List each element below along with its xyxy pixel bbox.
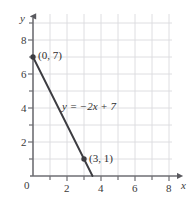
x-tick-label-6: 6 bbox=[132, 183, 138, 194]
x-tick-label-2: 2 bbox=[64, 183, 70, 194]
page-scan-artifact bbox=[8, 196, 188, 204]
origin-tick-label: 0 bbox=[24, 180, 30, 191]
equation-label: y = −2x + 7 bbox=[62, 101, 116, 112]
point-label-0-7: (0, 7) bbox=[38, 50, 62, 61]
line-graph-figure: y x 0 2 4 6 8 2 4 6 8 (0, 7) (3, 1) y = … bbox=[0, 0, 195, 206]
data-point-0-7 bbox=[30, 54, 35, 59]
y-tick-label-4: 4 bbox=[21, 103, 27, 114]
grid-horizontal-lines bbox=[33, 23, 172, 159]
x-tick-label-4: 4 bbox=[98, 183, 104, 194]
x-tick-label-8: 8 bbox=[166, 183, 172, 194]
x-axis-label: x bbox=[181, 180, 186, 191]
point-label-3-1: (3, 1) bbox=[89, 153, 113, 164]
y-tick-label-8: 8 bbox=[21, 35, 27, 46]
y-axis-label: y bbox=[20, 13, 25, 24]
y-tick-label-2: 2 bbox=[21, 137, 27, 148]
y-tick-label-6: 6 bbox=[21, 69, 27, 80]
data-point-3-1 bbox=[81, 156, 86, 161]
